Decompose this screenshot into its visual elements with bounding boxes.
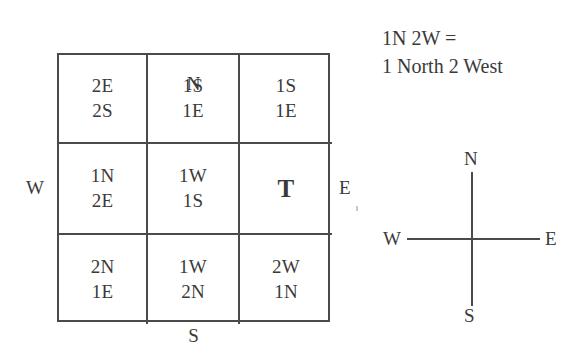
grid-cell-target-label: T: [278, 173, 295, 205]
grid-cell-line: 1N: [91, 164, 115, 188]
grid-cell-s: 1W 2N: [148, 235, 240, 324]
compass-label-east: E: [545, 228, 557, 250]
legend-abbreviation: 1N 2W =: [382, 24, 503, 52]
compass-rose: N S W E: [385, 150, 565, 330]
grid-cell-line: 1E: [275, 99, 297, 123]
grid-cell-line: 1W: [179, 164, 207, 188]
grid-cell-line: 1E: [182, 99, 204, 123]
grid-cell-ne: 1S 1E: [240, 55, 332, 144]
grid-edge-label-north: N: [57, 73, 330, 95]
grid-cell-line: 1N: [274, 280, 298, 304]
compass-horizontal-axis: [407, 238, 540, 240]
grid-cell-line: 2N: [91, 255, 115, 279]
grid-cell-line: 1E: [92, 280, 114, 304]
grid-cell-n: 1S 1E: [148, 55, 240, 144]
grid-cell-w: 1N 2E: [59, 144, 148, 235]
direction-grid-figure: N W E S 2E 2S 1S 1E 1S 1E 1N 2E: [0, 0, 572, 357]
grid-edge-label-south: S: [57, 325, 330, 347]
grid-cell-nw: 2E 2S: [59, 55, 148, 144]
scan-artifact-speck: [356, 206, 358, 211]
grid-edge-label-west: W: [26, 177, 44, 199]
grid-cell-se: 2W 1N: [240, 235, 332, 324]
grid-map-region: N W E S 2E 2S 1S 1E 1S 1E 1N 2E: [57, 53, 330, 322]
compass-label-west: W: [383, 228, 401, 250]
grid-cell-sw: 2N 1E: [59, 235, 148, 324]
compass-label-south: S: [464, 305, 475, 327]
grid-cell-line: 1W: [179, 255, 207, 279]
compass-label-north: N: [464, 148, 478, 170]
legend-expansion: 1 North 2 West: [382, 52, 503, 80]
grid-edge-label-east: E: [339, 177, 351, 199]
grid-cell-line: 1S: [183, 189, 203, 213]
grid-cell-line: 2S: [92, 99, 112, 123]
grid-cell-target: T: [240, 144, 332, 235]
grid-cell-line: 2N: [181, 280, 205, 304]
grid-cell-line: 2W: [272, 255, 300, 279]
grid-cell-center: 1W 1S: [148, 144, 240, 235]
legend: 1N 2W = 1 North 2 West: [382, 24, 503, 81]
grid-cell-line: 2E: [92, 189, 114, 213]
